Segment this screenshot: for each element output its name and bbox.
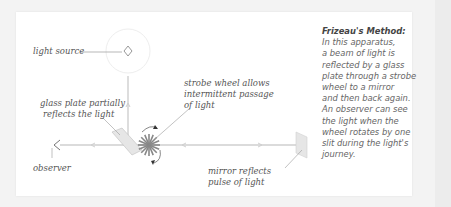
- light-source-label: light source: [33, 46, 84, 57]
- observer-label: observer: [33, 163, 71, 174]
- glass-plate-leader: [103, 118, 120, 135]
- description-line: In this apparatus,: [322, 37, 432, 48]
- glass-plate-label-1: glass plate partially: [40, 98, 125, 109]
- mirror-leader: [285, 150, 302, 168]
- mirror-label-1: mirror reflects: [208, 166, 271, 177]
- description-line: journey.: [322, 149, 432, 160]
- description-line: and then back again.: [322, 93, 432, 104]
- description: Frizeau's Method: In this apparatus, a b…: [322, 26, 432, 160]
- mirror: [296, 132, 307, 158]
- description-line: reflected by a glass: [322, 60, 432, 71]
- description-line: plate through a strobe: [322, 71, 432, 82]
- strobe-wheel-label-2: intermittent passage: [184, 89, 274, 100]
- light-halo: [106, 29, 150, 73]
- strobe-wheel-label-1: strobe wheel allows: [184, 78, 270, 89]
- description-line: wheel rotates by one: [322, 127, 432, 138]
- bulb-icon: [124, 46, 132, 56]
- observer-eye-icon: [54, 140, 60, 150]
- description-line: An observer can see: [322, 104, 432, 115]
- strobe-wheel-leader: [155, 108, 190, 139]
- glass-plate-label-2: reflects the light: [43, 109, 114, 120]
- description-line: the light when the: [322, 116, 432, 127]
- description-line: slit during the light's: [322, 138, 432, 149]
- description-title: Frizeau's Method:: [322, 26, 432, 37]
- mirror-label-2: pulse of light: [208, 177, 264, 188]
- description-line: wheel to a mirror: [322, 82, 432, 93]
- strobe-wheel-label-3: of light: [184, 100, 215, 111]
- glass-plate: [112, 128, 142, 155]
- description-line: a beam of light is: [322, 48, 432, 59]
